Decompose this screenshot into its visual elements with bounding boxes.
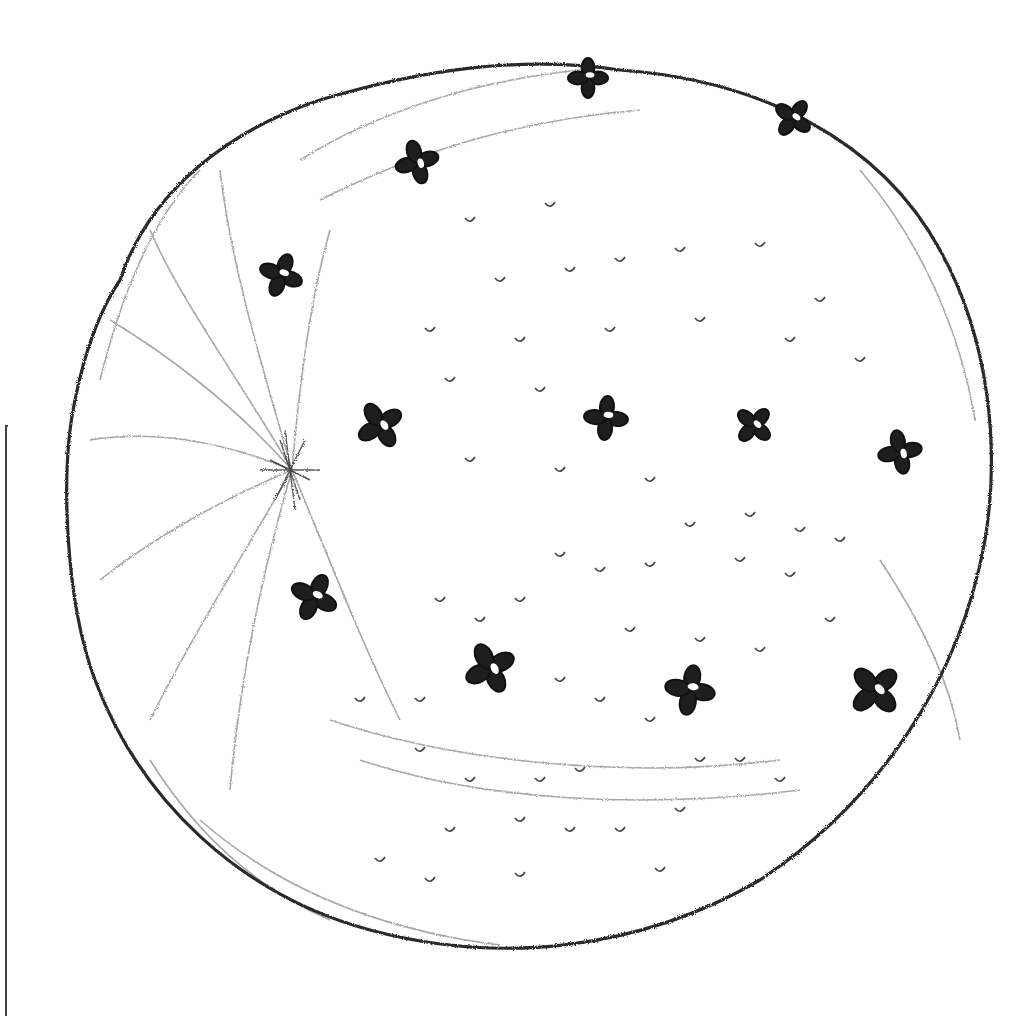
pore-mark bbox=[695, 637, 705, 641]
orange-drawing bbox=[0, 0, 1036, 1016]
pore-mark bbox=[555, 467, 565, 471]
pore-mark bbox=[555, 677, 565, 681]
pore-mark bbox=[595, 697, 605, 701]
pore-mark bbox=[415, 697, 425, 701]
fruit-outline bbox=[67, 64, 992, 948]
pore-mark bbox=[565, 827, 575, 831]
pore-mark bbox=[795, 527, 805, 531]
cloves bbox=[253, 58, 926, 728]
pore-mark bbox=[445, 827, 455, 831]
pore-mark bbox=[535, 777, 545, 781]
pore-mark bbox=[555, 552, 565, 556]
pore-mark bbox=[675, 807, 685, 811]
pore-mark bbox=[625, 627, 635, 631]
clove-icon bbox=[765, 90, 821, 146]
clove-icon bbox=[874, 426, 926, 478]
pore-mark bbox=[785, 572, 795, 576]
pore-mark bbox=[785, 337, 795, 341]
pore-mark bbox=[595, 567, 605, 571]
pore-mark bbox=[605, 327, 615, 331]
pore-mark bbox=[465, 217, 475, 221]
pore-mark bbox=[645, 477, 655, 481]
pore-mark bbox=[535, 387, 545, 391]
pore-mark bbox=[575, 767, 585, 771]
pore-mark bbox=[675, 247, 685, 251]
pore-mark bbox=[615, 827, 625, 831]
clove-icon bbox=[455, 633, 525, 703]
pore-mark bbox=[475, 617, 485, 621]
pore-mark bbox=[695, 317, 705, 321]
pore-mark bbox=[615, 257, 625, 261]
pore-mark bbox=[445, 377, 455, 381]
pore-mark bbox=[835, 537, 845, 541]
clove-icon bbox=[347, 392, 413, 458]
pore-mark bbox=[415, 747, 425, 751]
pore-mark bbox=[755, 647, 765, 651]
pore-mark bbox=[565, 267, 575, 271]
clove-icon bbox=[726, 397, 782, 453]
pore-mark bbox=[645, 717, 655, 721]
pore-mark bbox=[465, 777, 475, 781]
pore-mark bbox=[655, 867, 665, 871]
pore-mark bbox=[775, 777, 785, 781]
pore-mark bbox=[495, 277, 505, 281]
navel-mark bbox=[260, 430, 320, 510]
clove-icon bbox=[282, 565, 346, 629]
pore-mark bbox=[855, 357, 865, 361]
clove-icon bbox=[582, 394, 630, 442]
pore-mark bbox=[465, 457, 475, 461]
clove-icon bbox=[390, 135, 444, 189]
pore-mark bbox=[435, 597, 445, 601]
pore-mark bbox=[755, 242, 765, 246]
pore-mark bbox=[695, 757, 705, 761]
pore-mark bbox=[425, 327, 435, 331]
pore-mark bbox=[735, 757, 745, 761]
clove-icon bbox=[253, 247, 310, 304]
clove-icon bbox=[837, 652, 913, 728]
pore-mark bbox=[515, 597, 525, 601]
pore-mark bbox=[735, 557, 745, 561]
pore-mark bbox=[515, 337, 525, 341]
pore-mark bbox=[515, 872, 525, 876]
pore-mark bbox=[685, 522, 695, 526]
clove-icon bbox=[661, 661, 719, 719]
pore-mark bbox=[815, 297, 825, 301]
pore-mark bbox=[545, 202, 555, 206]
pore-mark bbox=[355, 697, 365, 701]
pore-mark bbox=[375, 857, 385, 861]
pore-mark bbox=[425, 877, 435, 881]
pore-mark bbox=[515, 817, 525, 821]
pore-mark bbox=[745, 512, 755, 516]
pore-mark bbox=[825, 617, 835, 621]
pore-mark bbox=[645, 562, 655, 566]
